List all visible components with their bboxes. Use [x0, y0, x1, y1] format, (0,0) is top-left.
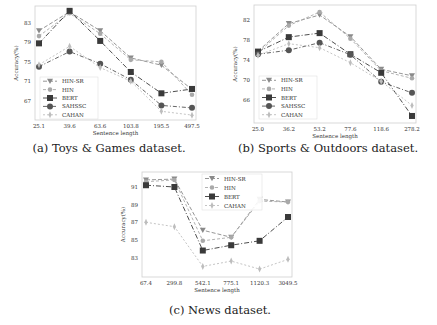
y-tick-label: 83: [24, 20, 31, 26]
sahssc-marker-icon: [347, 52, 353, 58]
legend-hin-marker-icon: [48, 87, 53, 92]
bert-marker-icon: [36, 40, 42, 46]
chart-news: 838587899167.4299.8542.1775.11120.33049.…: [110, 160, 330, 325]
caption-sports-outdoors: (b) Sports & Outdoors dataset.: [219, 141, 437, 155]
legend-label: HIN: [62, 87, 74, 93]
legend-sahssc-marker-icon: [266, 103, 272, 109]
bert-marker-icon: [286, 34, 292, 40]
y-tick-label: 79: [24, 39, 31, 45]
hin-marker-icon: [317, 10, 322, 15]
hin-marker-icon: [287, 23, 292, 28]
y-tick-label: 75: [24, 59, 31, 65]
legend-label: HIN-SR: [62, 78, 84, 84]
y-tick-label: 85: [131, 237, 138, 243]
x-tick-label: 39.6: [63, 123, 76, 129]
sahssc-marker-icon: [189, 105, 195, 111]
y-tick-label: 82: [243, 17, 250, 23]
x-tick-label: 103.8: [123, 123, 139, 129]
hin-marker-icon: [348, 36, 353, 41]
hin-marker-icon: [129, 58, 134, 63]
legend-bert-marker-icon: [47, 95, 53, 101]
legend-label: BERT: [281, 95, 297, 101]
x-tick-label: 25.0: [252, 126, 265, 132]
caption-toys-games: (a) Toys & Games dataset.: [0, 141, 218, 155]
hin-marker-icon: [98, 31, 103, 36]
x-tick-label: 63.6: [94, 123, 107, 129]
y-tick-label: 67: [24, 98, 31, 104]
x-tick-label: 775.1: [223, 280, 239, 286]
bert-marker-icon: [285, 214, 291, 220]
chart-sports-outdoors-plot: 667074788225.036.253.277.6118.6278.2Sent…: [219, 0, 437, 142]
y-tick-label: 89: [131, 202, 138, 208]
x-tick-label: 25.1: [33, 123, 45, 129]
bert-marker-icon: [228, 242, 234, 248]
legend-label: CAHAN: [281, 112, 303, 118]
x-tick-label: 1120.3: [250, 280, 270, 286]
bert-marker-icon: [378, 70, 384, 76]
y-tick-label: 70: [243, 77, 250, 83]
legend-label: BERT: [62, 95, 78, 101]
hin-marker-icon: [286, 200, 291, 205]
hin-marker-icon: [190, 92, 195, 97]
y-axis-label: Accuracy(%): [232, 46, 239, 82]
hin-marker-icon: [201, 239, 206, 244]
x-tick-label: 118.6: [373, 126, 389, 132]
legend-bert-marker-icon: [209, 194, 215, 200]
legend-label: CAHAN: [224, 203, 246, 209]
caption-news: (c) News dataset.: [110, 303, 330, 317]
x-tick-label: 299.8: [167, 280, 183, 286]
x-tick-label: 3049.5: [278, 280, 298, 286]
y-tick-label: 74: [243, 57, 250, 63]
x-axis-label: Sentence length: [312, 133, 358, 140]
sahssc-marker-icon: [409, 90, 415, 96]
x-tick-label: 542.1: [195, 280, 211, 286]
y-tick-label: 66: [243, 97, 250, 103]
y-tick-label: 78: [243, 37, 250, 43]
hin-marker-icon: [159, 59, 164, 64]
legend-label: SAHSSC: [281, 103, 305, 109]
chart-toys-games: 677175798325.139.663.6103.8195.5497.5Sen…: [0, 0, 218, 160]
bert-marker-icon: [97, 38, 103, 44]
hin-marker-icon: [172, 178, 177, 183]
legend: HIN-SRHINBERTSAHSSCCAHAN: [40, 77, 98, 119]
x-tick-label: 53.2: [313, 126, 325, 132]
legend-hin-marker-icon: [210, 185, 215, 190]
bert-marker-icon: [143, 182, 149, 188]
chart-sports-outdoors: 667074788225.036.253.277.6118.6278.2Sent…: [219, 0, 437, 160]
y-tick-label: 91: [131, 184, 138, 190]
y-axis-label: Accuracy(%): [120, 207, 127, 243]
hin-marker-icon: [229, 235, 234, 240]
legend-item-sahssc: SAHSSC: [43, 103, 86, 109]
x-tick-label: 195.5: [154, 123, 170, 129]
legend-label: HIN-SR: [224, 176, 246, 182]
hin-marker-icon: [37, 34, 42, 39]
x-axis-label: Sentence length: [194, 287, 240, 294]
legend-label: CAHAN: [62, 112, 84, 118]
bert-marker-icon: [189, 86, 195, 92]
bert-marker-icon: [158, 90, 164, 96]
sahssc-marker-icon: [158, 102, 164, 108]
legend-label: SAHSSC: [62, 103, 86, 109]
x-tick-label: 497.5: [184, 123, 200, 129]
x-tick-label: 77.6: [344, 126, 357, 132]
bert-marker-icon: [200, 248, 206, 254]
x-tick-label: 36.2: [283, 126, 295, 132]
legend-bert-marker-icon: [266, 95, 272, 101]
x-tick-label: 67.4: [140, 280, 153, 286]
legend-label: HIN-SR: [281, 77, 303, 83]
legend-label: HIN: [281, 86, 293, 92]
legend-label: BERT: [224, 194, 240, 200]
chart-toys-games-plot: 677175798325.139.663.6103.8195.5497.5Sen…: [0, 0, 218, 142]
y-tick-label: 71: [24, 78, 31, 84]
sahssc-marker-icon: [286, 47, 292, 53]
y-axis-label: Accuracy(%): [13, 45, 20, 81]
bert-marker-icon: [257, 238, 263, 244]
bert-marker-icon: [171, 184, 177, 190]
legend-label: HIN: [224, 185, 236, 191]
hin-marker-icon: [410, 76, 415, 81]
legend: HIN-SRHINBERTSAHSSCCAHAN: [259, 76, 317, 119]
x-axis-label: Sentence length: [93, 130, 139, 137]
legend: HIN-SRHINBERTCAHAN: [202, 174, 262, 210]
bert-marker-icon: [67, 8, 73, 14]
y-tick-label: 87: [131, 219, 138, 225]
